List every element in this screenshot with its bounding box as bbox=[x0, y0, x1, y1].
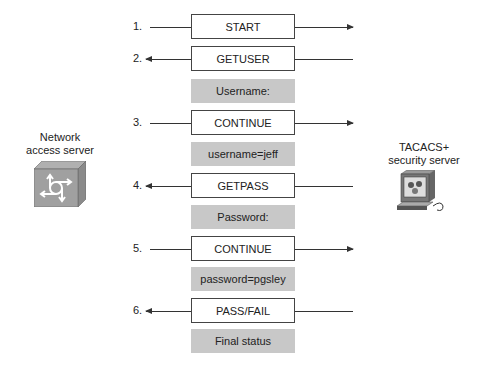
message-continue: CONTINUE bbox=[191, 110, 295, 135]
data-username-prompt: Username: bbox=[191, 79, 295, 103]
message-getuser: GETUSER bbox=[191, 46, 295, 71]
connector-line bbox=[295, 186, 353, 187]
connector-line bbox=[150, 123, 191, 124]
arrow-right-icon bbox=[295, 27, 353, 28]
step-number: 5. bbox=[133, 242, 153, 254]
arrow-left-icon bbox=[146, 186, 191, 187]
nas-label: Network access server bbox=[8, 131, 112, 157]
arrow-right-icon bbox=[295, 123, 353, 124]
connector-line bbox=[295, 59, 353, 60]
arrow-left-icon bbox=[146, 59, 191, 60]
step-number: 1. bbox=[133, 20, 153, 32]
connector-line bbox=[295, 311, 353, 312]
data-username-value: username=jeff bbox=[191, 142, 295, 166]
connector-line bbox=[150, 249, 191, 250]
tacacs-label-line2: security server bbox=[372, 154, 476, 167]
router-cube-icon bbox=[34, 161, 86, 207]
nas-label-line2: access server bbox=[8, 144, 112, 157]
arrow-left-icon bbox=[146, 311, 191, 312]
message-continue: CONTINUE bbox=[191, 236, 295, 261]
message-start: START bbox=[191, 14, 295, 39]
message-pass-fail: PASS/FAIL bbox=[191, 298, 295, 323]
tacacs-label: TACACS+ security server bbox=[372, 141, 476, 167]
data-password-prompt: Password: bbox=[191, 205, 295, 229]
connector-line bbox=[150, 27, 191, 28]
tacacs-label-line1: TACACS+ bbox=[372, 141, 476, 154]
data-final-status: Final status bbox=[191, 329, 295, 353]
arrow-right-icon bbox=[295, 249, 353, 250]
nas-label-line1: Network bbox=[8, 131, 112, 144]
message-getpass: GETPASS bbox=[191, 173, 295, 198]
data-password-value: password=pgsley bbox=[191, 267, 295, 291]
workstation-icon bbox=[397, 170, 447, 214]
step-number: 3. bbox=[133, 116, 153, 128]
